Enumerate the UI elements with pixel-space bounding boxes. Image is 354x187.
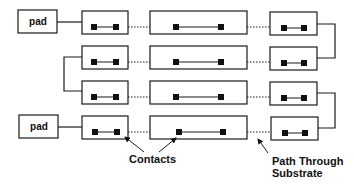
pad-top-label: pad: [18, 10, 58, 33]
contacts-group: [91, 24, 308, 136]
path-through-label: Path Through: [272, 155, 344, 167]
middle-segment-row1: [150, 11, 247, 34]
right-segment-row3: [270, 82, 317, 105]
substrate-arrow: [258, 139, 268, 153]
middle-segment-row4: [150, 116, 247, 139]
middle-segment-row2: [150, 46, 247, 69]
left-segment-row1: [82, 11, 128, 34]
right-bracket-bottom: [317, 93, 335, 128]
contacts-arrow-right: [159, 138, 176, 152]
pad-bottom-label: pad: [19, 115, 59, 138]
contacts-arrow-left: [125, 137, 144, 152]
right-segment-row4: [271, 117, 318, 140]
right-segment-row2: [270, 47, 317, 70]
middle-segment-row3: [150, 81, 247, 104]
substrate-label: Substrate: [272, 167, 323, 179]
left-segment-row2: [82, 46, 128, 69]
right-bracket-top: [317, 24, 335, 58]
left-bracket: [64, 57, 82, 91]
left-segment-row4: [82, 116, 128, 139]
contacts-label: Contacts: [129, 153, 176, 165]
right-segment-row1: [270, 12, 317, 35]
left-segment-row3: [82, 81, 128, 104]
